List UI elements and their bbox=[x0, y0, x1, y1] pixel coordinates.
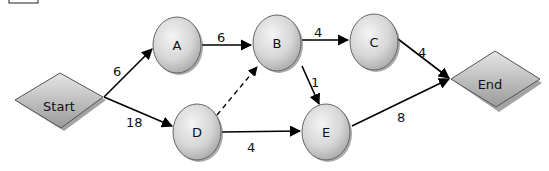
node-d[interactable]: D bbox=[173, 104, 223, 162]
corner-box bbox=[9, 0, 38, 3]
edge-label-start-a: 6 bbox=[113, 64, 121, 79]
node-d-label: D bbox=[192, 125, 202, 140]
node-c-label: C bbox=[369, 35, 378, 50]
node-b[interactable]: B bbox=[253, 15, 303, 73]
node-end[interactable]: End bbox=[451, 51, 542, 112]
node-c[interactable]: C bbox=[350, 14, 400, 72]
node-a[interactable]: A bbox=[153, 17, 203, 75]
edge-label-b-c: 4 bbox=[314, 25, 322, 40]
node-start[interactable]: Start bbox=[15, 73, 106, 131]
node-e-label: E bbox=[322, 125, 330, 140]
edge-start-a bbox=[104, 49, 152, 97]
edge-d-b bbox=[217, 67, 257, 115]
edge-label-start-d: 18 bbox=[126, 115, 143, 130]
node-end-label: End bbox=[478, 77, 503, 92]
node-b-label: B bbox=[273, 36, 282, 51]
edge-label-d-e: 4 bbox=[247, 140, 255, 155]
node-start-label: Start bbox=[43, 99, 75, 114]
network-diagram: 6 18 6 4 1 4 4 8 Start A B C D E bbox=[0, 0, 549, 171]
node-a-label: A bbox=[173, 38, 182, 53]
edge-label-b-e: 1 bbox=[311, 75, 319, 90]
edge-label-a-b: 6 bbox=[217, 30, 225, 45]
node-e[interactable]: E bbox=[302, 104, 352, 162]
edge-label-e-end: 8 bbox=[397, 110, 405, 125]
edge-label-c-end: 4 bbox=[418, 45, 426, 60]
edge-d-e bbox=[222, 131, 300, 132]
